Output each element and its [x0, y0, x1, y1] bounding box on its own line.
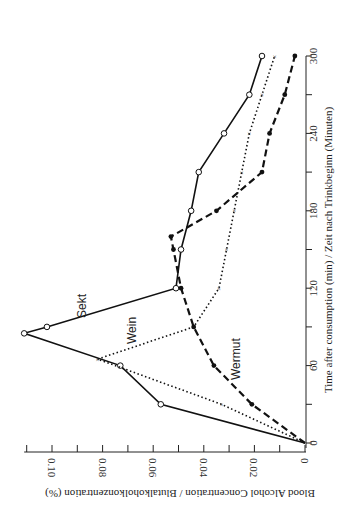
svg-text:×: ×	[217, 285, 221, 293]
svg-text:×: ×	[220, 401, 224, 409]
svg-text:×: ×	[240, 169, 244, 177]
blood-alcohol-chart: 06012018024030000.020.040.060.080.10Time…	[0, 0, 348, 523]
svg-text:×: ×	[260, 91, 264, 99]
svg-text:×: ×	[273, 53, 277, 61]
x-tick-label: 240	[307, 125, 319, 142]
series-sekt	[24, 56, 305, 443]
x-tick-label: 0	[307, 440, 319, 446]
label-wermut: Wermut	[229, 338, 243, 380]
y-tick-label: 0	[299, 458, 311, 464]
label-sekt: Sekt	[75, 293, 89, 318]
x-tick-label: 300	[307, 47, 319, 64]
y-tick-label: 0.04	[198, 458, 210, 478]
y-tick-label: 0.02	[248, 458, 260, 477]
y-tick-label: 0.10	[46, 458, 58, 478]
x-axis-label: Time after consumption (min) / Zeit nach…	[322, 107, 335, 394]
x-tick-label: 120	[307, 279, 319, 296]
svg-text:×: ×	[232, 207, 236, 215]
y-tick-label: 0.08	[97, 458, 109, 478]
x-tick-label: 60	[307, 360, 319, 372]
x-tick-label: 180	[307, 202, 319, 219]
label-wein: Wein	[125, 317, 139, 344]
series-wein	[98, 56, 305, 443]
y-axis-label: Blood Alcohol Concentration / Blutalkoho…	[45, 487, 315, 500]
svg-text:×: ×	[247, 130, 251, 138]
y-tick-label: 0.06	[147, 458, 159, 478]
svg-text:×: ×	[96, 356, 100, 364]
series-wermut	[171, 56, 305, 443]
svg-text:×: ×	[225, 246, 229, 254]
